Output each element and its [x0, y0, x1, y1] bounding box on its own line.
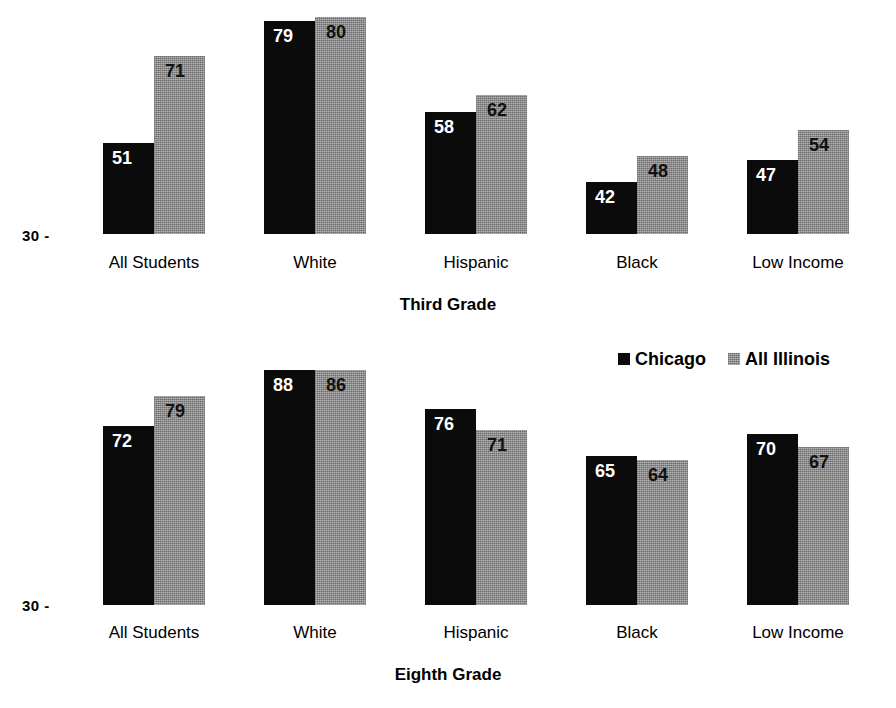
bar-chicago-hispanic[interactable]: 58 [425, 112, 476, 234]
bar-value-label: 64 [648, 466, 668, 484]
legend-item-chicago[interactable]: Chicago [618, 350, 706, 368]
bar-value-label: 51 [112, 149, 132, 167]
bar-value-label: 86 [326, 376, 346, 394]
bar-chicago-black[interactable]: 65 [586, 456, 637, 605]
bar-chicago-all-students[interactable]: 51 [103, 143, 154, 234]
bar-value-label: 71 [165, 62, 185, 80]
chart-panel-third-grade: 30 - 51717980586242484754 Third Grade Al… [0, 0, 896, 330]
bar-group-low-income: 7067 [747, 370, 849, 605]
bar-all-illinois-all-students[interactable]: 71 [154, 56, 205, 234]
bar-chicago-black[interactable]: 42 [586, 182, 637, 234]
bar-value-label: 42 [595, 188, 615, 206]
bar-value-label: 72 [112, 432, 132, 450]
bar-group-hispanic: 5862 [425, 0, 527, 234]
bar-chicago-low-income[interactable]: 70 [747, 434, 798, 605]
illinois-swatch-icon [728, 353, 740, 365]
bar-group-low-income: 4754 [747, 0, 849, 234]
bar-value-label: 47 [756, 166, 776, 184]
bar-value-label: 80 [326, 23, 346, 41]
bar-all-illinois-black[interactable]: 64 [637, 460, 688, 605]
bar-value-label: 70 [756, 440, 776, 458]
bar-all-illinois-black[interactable]: 48 [637, 156, 688, 234]
bar-chicago-hispanic[interactable]: 76 [425, 409, 476, 605]
bar-all-illinois-white[interactable]: 86 [315, 370, 366, 605]
bar-value-label: 79 [273, 27, 293, 45]
bar-value-label: 76 [434, 415, 454, 433]
bar-group-all-students: 7279 [103, 370, 205, 605]
bar-value-label: 58 [434, 118, 454, 136]
bar-group-all-students: 5171 [103, 0, 205, 234]
bar-chicago-white[interactable]: 88 [264, 370, 315, 605]
category-label-low-income: Low Income [702, 624, 894, 641]
bar-all-illinois-hispanic[interactable]: 71 [476, 430, 527, 605]
bar-all-illinois-all-students[interactable]: 79 [154, 396, 205, 605]
bar-value-label: 71 [487, 436, 507, 454]
plot-area-eighth-grade: 72798886767165647067 [0, 370, 896, 606]
bar-all-illinois-white[interactable]: 80 [315, 17, 366, 235]
bar-all-illinois-hispanic[interactable]: 62 [476, 95, 527, 234]
panel-title-third-grade: Third Grade [0, 296, 896, 313]
bar-chicago-all-students[interactable]: 72 [103, 426, 154, 605]
chart-page: 30 - 51717980586242484754 Third Grade Al… [0, 0, 896, 708]
bar-value-label: 79 [165, 402, 185, 420]
bar-chicago-low-income[interactable]: 47 [747, 160, 798, 234]
bar-group-white: 7980 [264, 0, 366, 234]
legend-item-all-illinois[interactable]: All Illinois [728, 350, 830, 368]
chart-panel-eighth-grade: 30 - 72798886767165647067 Eighth Grade A… [0, 370, 896, 708]
bar-all-illinois-low-income[interactable]: 54 [798, 130, 849, 234]
bar-value-label: 65 [595, 462, 615, 480]
bar-value-label: 54 [809, 136, 829, 154]
bar-value-label: 62 [487, 101, 507, 119]
bar-all-illinois-low-income[interactable]: 67 [798, 447, 849, 605]
panel-title-eighth-grade: Eighth Grade [0, 666, 896, 683]
plot-area-third-grade: 51717980586242484754 [0, 0, 896, 236]
legend-label-all-illinois: All Illinois [745, 350, 830, 368]
category-label-low-income: Low Income [702, 254, 894, 271]
bar-group-white: 8886 [264, 370, 366, 605]
bar-value-label: 67 [809, 453, 829, 471]
bar-group-black: 6564 [586, 370, 688, 605]
bar-group-hispanic: 7671 [425, 370, 527, 605]
chart-legend: Chicago All Illinois [618, 350, 830, 368]
chicago-swatch-icon [618, 353, 630, 365]
legend-label-chicago: Chicago [635, 350, 706, 368]
bar-group-black: 4248 [586, 0, 688, 234]
bar-chicago-white[interactable]: 79 [264, 21, 315, 234]
bar-value-label: 48 [648, 162, 668, 180]
bar-value-label: 88 [273, 376, 293, 394]
